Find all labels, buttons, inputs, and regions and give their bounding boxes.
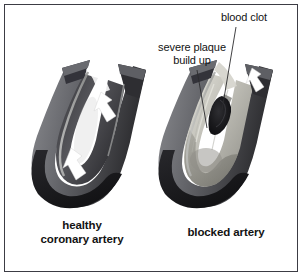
caption-healthy-coronary-artery: healthy coronary artery	[14, 219, 150, 246]
caption-blocked-artery: blocked artery	[160, 226, 292, 240]
figure-root: blood clot severe plaque build up health…	[0, 0, 304, 278]
callout-blood-clot: blood clot	[196, 11, 292, 24]
callout-severe-plaque-build-up: severe plaque build up	[140, 41, 244, 67]
blocked-artery-graphic	[158, 60, 273, 208]
healthy-artery-graphic	[31, 60, 146, 208]
